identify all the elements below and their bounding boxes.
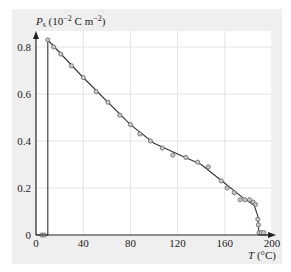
data-point bbox=[256, 217, 260, 221]
x-tick-label: 200 bbox=[264, 237, 281, 249]
data-point bbox=[256, 223, 260, 227]
y-tick-label: 0.4 bbox=[17, 135, 31, 147]
x-tick-label: 120 bbox=[169, 237, 186, 249]
x-axis-label: T (°C) bbox=[248, 249, 276, 262]
data-point bbox=[196, 160, 200, 164]
x-tick-label: 0 bbox=[33, 237, 39, 249]
data-point bbox=[148, 139, 152, 143]
data-point bbox=[160, 146, 164, 150]
y-tick-labels: 00.20.40.60.8 bbox=[17, 41, 31, 241]
x-tick-labels: 04080120160200 bbox=[33, 237, 281, 249]
data-point bbox=[238, 198, 242, 202]
y-tick-label: 0.2 bbox=[17, 182, 31, 194]
data-point bbox=[225, 186, 229, 190]
data-point bbox=[206, 165, 210, 169]
x-tick-label: 40 bbox=[78, 237, 90, 249]
y-tick-label: 0.8 bbox=[17, 41, 31, 53]
chart: 04080120160200 00.20.40.60.8 Ps (10−2 C … bbox=[0, 0, 291, 272]
data-point bbox=[219, 179, 223, 183]
y-tick-label: 0 bbox=[26, 229, 32, 241]
y-axis-label: Ps (10−2 C m−2) bbox=[35, 14, 106, 29]
data-point bbox=[171, 153, 175, 157]
data-point bbox=[106, 100, 110, 104]
data-point bbox=[243, 198, 247, 202]
plot-area bbox=[36, 31, 273, 235]
data-point bbox=[94, 90, 98, 94]
data-point bbox=[69, 64, 73, 68]
data-point bbox=[59, 52, 63, 56]
data-point bbox=[46, 38, 50, 42]
data-point bbox=[253, 202, 257, 206]
data-point bbox=[52, 45, 56, 49]
data-point bbox=[232, 191, 236, 195]
x-tick-label: 80 bbox=[125, 237, 137, 249]
data-point bbox=[138, 132, 142, 136]
data-point bbox=[118, 113, 122, 117]
data-point bbox=[128, 122, 132, 126]
data-point bbox=[262, 231, 266, 235]
data-point bbox=[81, 75, 85, 79]
x-tick-label: 160 bbox=[217, 237, 234, 249]
y-tick-label: 0.6 bbox=[17, 88, 31, 100]
data-point bbox=[184, 155, 188, 159]
